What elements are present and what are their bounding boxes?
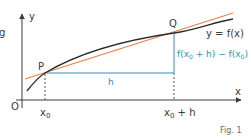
- x0h-suffix: + h: [174, 107, 195, 118]
- point-q-label: Q: [169, 18, 177, 29]
- diff-part3: ): [244, 49, 248, 59]
- diff-part2: + h) − f(x: [193, 49, 241, 59]
- h-label: h: [108, 77, 114, 87]
- edge-text-fragment: g: [0, 27, 5, 38]
- x0h-tick-label: x0 + h: [164, 107, 195, 120]
- x0-sub: 0: [46, 112, 50, 120]
- x0-tick-label: x0: [40, 107, 50, 120]
- secant-line: [25, 13, 233, 79]
- origin-label: O: [11, 101, 19, 112]
- figure-caption: Fig. 1: [220, 126, 242, 135]
- y-axis-label: y: [29, 11, 35, 22]
- difference-label: f(x0 + h) − f(x0): [177, 49, 248, 60]
- point-p-label: P: [38, 61, 44, 72]
- x-axis-label: x: [235, 86, 241, 97]
- diagram-canvas: g y x O P Q y = f(x) h f(x0 + h) − f(x0)…: [0, 0, 251, 140]
- diff-part1: f(x: [177, 49, 190, 59]
- curve-label: y = f(x): [206, 28, 244, 39]
